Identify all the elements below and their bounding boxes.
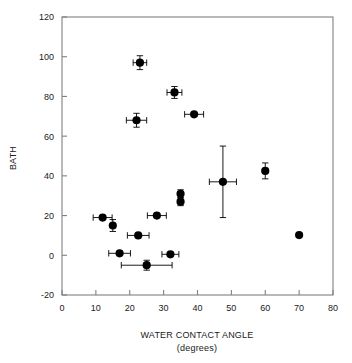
y-tick-label: 60 xyxy=(44,132,54,142)
x-tick-label: 30 xyxy=(159,303,169,313)
data-point xyxy=(176,190,184,198)
x-tick-label: 80 xyxy=(328,303,338,313)
x-axis-ticks xyxy=(62,290,333,295)
x-tick-label: 60 xyxy=(260,303,270,313)
x-tick-label: 70 xyxy=(294,303,304,313)
x-tick-label: 50 xyxy=(226,303,236,313)
data-point xyxy=(295,231,303,239)
data-point xyxy=(134,231,142,239)
x-tick-label: 40 xyxy=(192,303,202,313)
data-point xyxy=(219,178,227,186)
y-tick-label: 40 xyxy=(44,171,54,181)
data-point xyxy=(170,88,178,96)
scatter-plot-figure: 01020304050607080 -20020406080100120 WAT… xyxy=(0,0,352,363)
y-tick-label: 120 xyxy=(39,12,54,22)
data-point xyxy=(109,221,117,229)
data-point xyxy=(153,211,161,219)
y-tick-label: -20 xyxy=(41,290,54,300)
plot-frame xyxy=(62,17,333,295)
data-markers-group xyxy=(99,59,304,270)
data-point xyxy=(190,110,198,118)
y-axis-ticks xyxy=(62,17,67,295)
x-tick-label: 0 xyxy=(59,303,64,313)
y-tick-label: 0 xyxy=(49,251,54,261)
error-bars-group xyxy=(93,56,268,270)
data-point xyxy=(261,167,269,175)
y-tick-label: 100 xyxy=(39,52,54,62)
data-point xyxy=(99,213,107,221)
x-tick-label: 10 xyxy=(91,303,101,313)
data-point xyxy=(166,250,174,258)
y-axis-label: BATH xyxy=(8,146,18,170)
y-tick-label: 20 xyxy=(44,211,54,221)
x-axis-label: WATER CONTACT ANGLE xyxy=(141,330,254,340)
data-point xyxy=(176,198,184,206)
data-point xyxy=(136,59,144,67)
x-axis-tick-labels: 01020304050607080 xyxy=(59,303,338,313)
y-axis-tick-labels: -20020406080100120 xyxy=(39,12,54,300)
data-point xyxy=(143,261,151,269)
x-tick-label: 20 xyxy=(125,303,135,313)
data-point xyxy=(115,249,123,257)
data-point xyxy=(132,116,140,124)
x-axis-label-units: (degrees) xyxy=(177,343,217,353)
y-tick-label: 80 xyxy=(44,92,54,102)
